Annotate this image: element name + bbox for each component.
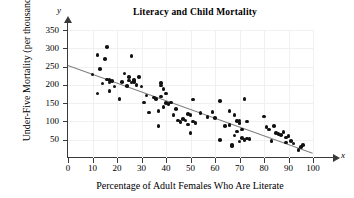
scatter-point [169,101,173,105]
scatter-point [243,97,247,101]
scatter-point [125,84,129,88]
scatter-point [172,113,176,117]
scatter-point [186,123,190,127]
scatter-point [223,124,227,128]
y-axis-tick [63,140,68,141]
x-axis-tick-label: 20 [104,164,130,173]
y-axis-tick-label: 50 [33,135,59,144]
x-axis-tick-label: 80 [251,164,277,173]
scatter-point [267,128,271,132]
y-axis-tick-label: 100 [33,117,59,126]
y-axis-tick [63,85,68,86]
x-axis-tick-label: 50 [178,164,204,173]
y-axis-tick-label: 250 [33,62,59,71]
y-axis-arrow-icon [64,16,72,23]
x-axis-tick-label: 30 [129,164,155,173]
gridline-horizontal [68,103,313,104]
scatter-point [218,99,222,103]
x-axis-tick-label: 0 [55,164,81,173]
y-axis-title: Under-Five Mortality (per thousand) [21,0,33,143]
scatter-point [287,134,291,138]
x-axis-tick-label: 100 [300,164,326,173]
scatter-point [218,138,222,142]
y-axis-tick [63,67,68,68]
x-axis-tick-label: 90 [276,164,302,173]
y-axis-tick [63,48,68,49]
scatter-point [142,101,146,105]
scatter-point [191,98,195,102]
scatter-point [301,143,305,147]
scatter-point [245,120,249,124]
x-axis-symbol: x [341,150,345,160]
scatter-point [230,143,234,147]
scatter-point [103,57,107,61]
x-axis-title: Percentage of Adult Females Who Are Lite… [45,180,335,191]
y-axis-tick-label: 350 [33,26,59,35]
y-axis-tick-label: 300 [33,44,59,53]
x-axis-tick-label: 40 [153,164,179,173]
scatter-point [213,116,217,120]
scatter-point [189,113,193,117]
scatter-point [137,75,141,79]
gridline-horizontal [68,30,313,31]
gridline-horizontal [68,67,313,68]
scatter-point [120,80,124,84]
scatter-point [233,113,237,117]
x-axis-tick-label: 10 [80,164,106,173]
scatter-point [105,45,109,49]
chart-figure: Literacy and Child Mortality y x Under-F… [0,0,354,198]
scatter-point [174,107,178,111]
x-axis-tick-label: 60 [202,164,228,173]
scatter-point [248,137,252,141]
y-axis-tick [63,121,68,122]
y-axis-tick-label: 150 [33,99,59,108]
y-axis-symbol: y [57,5,61,15]
scatter-point [154,97,158,101]
y-axis-tick [63,103,68,104]
scatter-point [162,105,166,109]
chart-title: Literacy and Child Mortality [110,7,280,18]
scatter-point [272,124,276,128]
scatter-point [199,111,203,115]
gridline-horizontal [68,85,313,86]
scatter-point [110,79,114,83]
y-axis-tick-label: 200 [33,80,59,89]
x-axis-arrow-icon [333,154,340,162]
scatter-point [194,121,198,125]
y-axis-tick [63,30,68,31]
scatter-point [240,128,244,132]
x-axis-tick-label: 70 [227,164,253,173]
scatter-point [98,67,102,71]
scatter-point [211,110,215,114]
scatter-point [270,139,274,143]
scatter-point [162,87,166,91]
gridline-vertical [313,30,314,158]
scatter-point [96,53,100,57]
scatter-point [118,97,122,101]
